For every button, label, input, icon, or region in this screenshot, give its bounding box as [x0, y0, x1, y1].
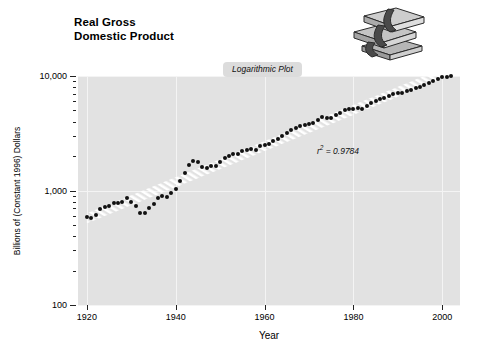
x-axis-tick-label: 1920: [77, 312, 97, 322]
data-point: [227, 154, 231, 158]
y-axis-minor-tick: [73, 202, 76, 203]
data-point: [431, 79, 435, 83]
data-point: [249, 147, 253, 151]
data-point: [316, 118, 320, 122]
data-point: [200, 165, 204, 169]
data-point: [85, 215, 89, 219]
data-point: [440, 75, 444, 79]
data-point: [223, 156, 227, 160]
gridline-vertical: [442, 76, 443, 305]
data-point: [187, 163, 191, 167]
data-point: [112, 201, 116, 205]
data-point: [329, 116, 333, 120]
y-axis-minor-tick: [73, 101, 76, 102]
data-point: [98, 207, 102, 211]
data-point: [351, 107, 355, 111]
data-point: [311, 121, 315, 125]
data-point: [449, 74, 453, 78]
x-axis-tick-label: 1960: [255, 312, 275, 322]
y-axis-label: Billions of (Constant 1996) Dollars: [10, 76, 24, 305]
y-axis-tick: [70, 76, 76, 77]
gridline-vertical: [265, 76, 266, 305]
plot-area: 1001,00010,000 19201940196019802000: [78, 76, 460, 305]
y-axis-tick-label: 100: [52, 300, 67, 310]
data-point: [427, 81, 431, 85]
r-squared-annotation: r2 = 0.9784: [317, 144, 359, 156]
data-point: [298, 124, 302, 128]
gdp-chart-figure: Real Gross Domestic Product 1001,00: [0, 0, 482, 360]
data-point: [285, 131, 289, 135]
x-axis-tick-label: 1980: [343, 312, 363, 322]
y-axis-tick: [70, 305, 76, 306]
data-point: [125, 196, 129, 200]
data-point: [196, 160, 200, 164]
data-point: [382, 96, 386, 100]
y-axis-minor-tick: [73, 236, 76, 237]
data-point: [347, 107, 351, 111]
y-axis-minor-tick: [73, 110, 76, 111]
data-point: [107, 204, 111, 208]
data-point: [289, 128, 293, 132]
data-point: [325, 116, 329, 120]
y-axis-minor-tick: [73, 208, 76, 209]
y-axis-tick-label: 1,000: [44, 186, 67, 196]
x-axis-tick: [442, 305, 443, 310]
data-point: [183, 171, 187, 175]
data-point: [418, 85, 422, 89]
data-point: [409, 88, 413, 92]
y-axis-minor-tick: [73, 81, 76, 82]
data-point: [445, 75, 449, 79]
y-axis-minor-tick: [73, 136, 76, 137]
gridline-vertical: [87, 76, 88, 305]
gridline-horizontal: [78, 305, 460, 306]
data-point: [178, 179, 182, 183]
data-point: [116, 201, 120, 205]
data-point: [147, 206, 151, 210]
data-point: [374, 99, 378, 103]
data-point: [231, 152, 235, 156]
x-axis-tick: [87, 305, 88, 310]
data-point: [343, 108, 347, 112]
data-point: [267, 142, 271, 146]
data-point: [422, 83, 426, 87]
data-point: [129, 200, 133, 204]
data-point: [236, 152, 240, 156]
x-axis-tick: [353, 305, 354, 310]
data-point: [160, 194, 164, 198]
data-point: [307, 122, 311, 126]
data-point: [209, 164, 213, 168]
data-point: [240, 149, 244, 153]
x-axis-tick: [265, 305, 266, 310]
data-point: [94, 213, 98, 217]
data-point: [387, 94, 391, 98]
x-axis-tick: [176, 305, 177, 310]
data-point: [205, 166, 209, 170]
y-axis-minor-tick: [73, 271, 76, 272]
data-point: [334, 113, 338, 117]
data-point: [174, 187, 178, 191]
r-value: = 0.9784: [323, 146, 359, 156]
data-point: [156, 196, 160, 200]
data-point: [138, 211, 142, 215]
x-axis-tick-label: 2000: [432, 312, 452, 322]
y-axis-minor-tick: [73, 216, 76, 217]
y-axis-minor-tick: [73, 196, 76, 197]
y-axis-minor-tick: [73, 87, 76, 88]
chart-title: Real Gross Domestic Product: [74, 16, 174, 43]
x-axis-label: Year: [78, 330, 460, 341]
data-point: [391, 92, 395, 96]
data-point: [103, 205, 107, 209]
data-point: [258, 144, 262, 148]
data-point: [214, 164, 218, 168]
data-point: [245, 148, 249, 152]
data-point: [369, 101, 373, 105]
data-point: [303, 123, 307, 127]
data-point: [218, 160, 222, 164]
data-point: [165, 195, 169, 199]
data-point: [143, 211, 147, 215]
data-point: [271, 139, 275, 143]
data-point: [89, 216, 93, 220]
stack-of-money-icon: [344, 2, 430, 64]
data-point: [338, 111, 342, 115]
data-point: [152, 202, 156, 206]
